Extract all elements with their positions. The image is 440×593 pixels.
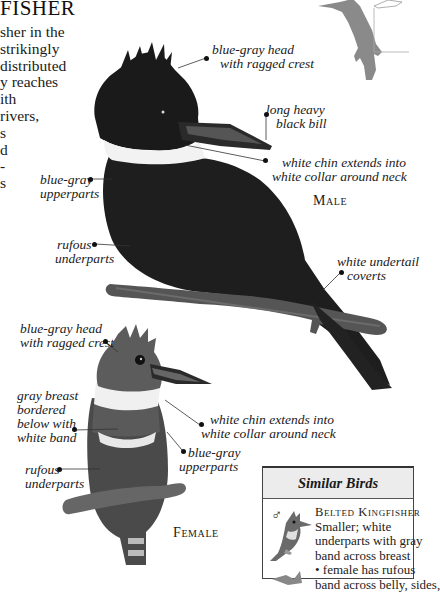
callout-dot	[72, 427, 77, 432]
callout-dot	[204, 56, 209, 61]
label-male-underparts: rufous underparts	[55, 238, 114, 266]
label-male-undertail: white undertail coverts	[337, 255, 419, 283]
similar-bird-line: Smaller; white	[315, 520, 440, 535]
label-female-underparts: rufous underparts	[25, 463, 84, 491]
similar-birds-box: Similar Birds ♂ Belted Kingfisher Smalle…	[262, 466, 414, 579]
label-male-bill: long heavy black bill	[266, 103, 327, 131]
female-caption: Female	[173, 523, 219, 541]
similar-bird-name: Belted Kingfisher	[315, 505, 440, 520]
similar-bird-line: • female has rufous	[315, 563, 440, 578]
label-female-head: blue-gray head with ragged crest	[20, 322, 114, 350]
callout-dot	[199, 422, 204, 427]
callout-dot	[88, 177, 93, 182]
callout-dot	[264, 112, 269, 117]
male-caption: Male	[313, 191, 347, 209]
callout-dot	[339, 270, 344, 275]
callout-dot	[181, 449, 186, 454]
callout-dot	[103, 339, 108, 344]
similar-birds-heading: Similar Birds	[263, 468, 413, 499]
label-male-head: blue-gray head with ragged crest	[212, 43, 314, 71]
callout-dot	[263, 158, 268, 163]
label-male-chin: white chin extends into white collar aro…	[272, 156, 407, 184]
label-female-upperparts: blue-gray upperparts	[179, 446, 240, 474]
similar-bird-line: band across breast	[315, 549, 440, 564]
label-female-chin: white chin extends into white collar aro…	[201, 413, 336, 441]
callout-dot	[57, 467, 62, 472]
belted-kingfisher-thumbnail	[268, 509, 314, 589]
similar-bird-line: underparts with gray	[315, 534, 440, 549]
similar-bird-text: Belted Kingfisher Smaller; white underpa…	[315, 505, 440, 593]
label-female-breast: gray breast bordered below with white ba…	[17, 389, 78, 445]
callout-dot	[92, 242, 97, 247]
similar-bird-line: band across belly, sides,	[315, 578, 440, 593]
